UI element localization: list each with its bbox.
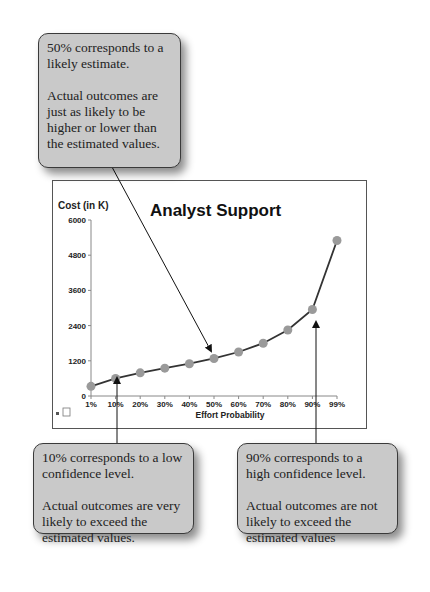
y-tick-label: 3600 <box>68 286 86 295</box>
data-point-marker <box>210 354 219 363</box>
x-tick-label: 30% <box>157 400 173 409</box>
callout-50-percent: 50% corresponds to a likely estimate. Ac… <box>38 33 181 168</box>
x-axis-label: Effort Probability <box>196 410 265 420</box>
data-point-marker <box>234 348 243 357</box>
x-tick-label: 50% <box>206 400 222 409</box>
data-point-marker <box>185 359 194 368</box>
callout-10-percent: 10% corresponds to a low confidence leve… <box>33 443 194 534</box>
data-series <box>87 236 342 391</box>
data-point-marker <box>111 374 120 383</box>
y-tick-label: 4800 <box>68 251 86 260</box>
y-tick-label: 6000 <box>68 216 86 225</box>
y-tick-label: 2400 <box>68 322 86 331</box>
data-point-marker <box>308 305 317 314</box>
series-line <box>91 241 337 387</box>
y-tick-label: 1200 <box>68 357 86 366</box>
callout-90-percent: 90% corresponds to a high confidence lev… <box>237 443 398 534</box>
x-tick-label: 1% <box>85 400 97 409</box>
chart-corner-icon <box>56 408 70 416</box>
x-tick-label: 40% <box>181 400 197 409</box>
callout-50-body: Actual outcomes are just as likely to be… <box>47 88 172 152</box>
data-point-marker <box>87 382 96 391</box>
x-tick-label: 90% <box>304 400 320 409</box>
x-tick-label: 20% <box>132 400 148 409</box>
x-tick-label: 60% <box>231 400 247 409</box>
callout-10-title: 10% corresponds to a low confidence leve… <box>42 450 185 482</box>
x-tick-label: 99% <box>329 400 345 409</box>
data-point-marker <box>259 339 268 348</box>
arrow-50-percent <box>112 167 211 351</box>
callout-90-body: Actual outcomes are not likely to exceed… <box>246 498 389 546</box>
x-tick-label: 70% <box>255 400 271 409</box>
callout-10-body: Actual outcomes are very likely to excee… <box>42 498 185 546</box>
chart-title: Analyst Support <box>150 201 282 220</box>
data-point-marker <box>160 364 169 373</box>
y-axis-label: Cost (in K) <box>58 200 109 211</box>
x-tick-label: 80% <box>280 400 296 409</box>
x-tick-label: 10% <box>108 400 124 409</box>
data-point-marker <box>333 236 342 245</box>
data-point-marker <box>136 368 145 377</box>
data-point-marker <box>283 326 292 335</box>
callout-90-title: 90% corresponds to a high confidence lev… <box>246 450 389 482</box>
callout-50-title: 50% corresponds to a likely estimate. <box>47 40 172 72</box>
